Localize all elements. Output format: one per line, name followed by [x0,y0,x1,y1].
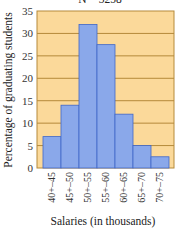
x-tick-label: 50+–55 [82,172,93,203]
histogram-bar [97,45,115,168]
y-tick-label: 15 [22,95,34,107]
y-axis-label: Percentage of graduating students [2,12,15,168]
histogram-bar [79,24,97,168]
x-axis-ticks: 40+–4545+–5050+–5555+–6060+–6565+–7070+–… [46,172,165,203]
y-tick-label: 5 [28,140,34,152]
histogram-bar [133,146,151,168]
x-tick-label: 45+–50 [64,172,75,203]
chart-title: N = 3258 [78,0,122,5]
histogram-chart: N = 3258 05101520253035 40+–4545+–5050+–… [0,0,176,233]
histogram-bar [43,137,61,168]
x-tick-label: 60+–65 [118,172,129,203]
y-tick-label: 0 [28,162,34,174]
histogram-bar [151,157,169,168]
x-tick-label: 40+–45 [46,172,57,203]
plot-area [37,11,174,168]
y-tick-label: 35 [22,5,34,17]
y-tick-label: 30 [22,27,34,39]
y-tick-label: 10 [22,117,34,129]
histogram-bar [61,105,79,168]
x-tick-label: 65+–70 [136,172,147,203]
x-axis-label: Salaries (in thousands) [51,215,156,228]
histogram-bar [115,114,133,168]
x-tick-label: 55+–60 [100,172,111,203]
y-axis-ticks: 05101520253035 [22,5,34,174]
x-tick-label: 70+–75 [154,172,165,203]
y-tick-label: 20 [22,72,34,84]
y-tick-label: 25 [22,50,34,62]
